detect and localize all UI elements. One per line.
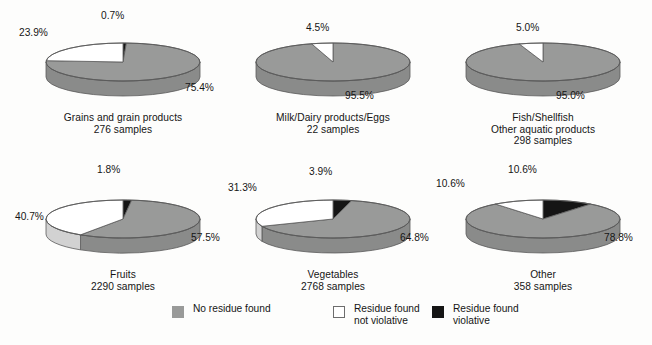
pct-label-1-noresidue: 95.5% bbox=[345, 90, 374, 101]
legend-entry-no-residue-found[interactable]: No residue found bbox=[172, 303, 271, 318]
pct-label-4-notviolative: 31.3% bbox=[228, 182, 257, 193]
pct-label-3-notviolative: 40.7% bbox=[15, 211, 44, 222]
pie-caption-4: Vegetables 2768 samples bbox=[224, 269, 442, 292]
legend-label-no-residue-found: No residue found bbox=[193, 303, 271, 315]
pie-caption-0: Grains and grain products 276 samples bbox=[14, 112, 232, 135]
pie-cell-2: Fish/Shellfish Other aquatic products 29… bbox=[434, 14, 652, 164]
pct-label-5-notviolative: 10.6% bbox=[436, 178, 465, 189]
legend-swatch-black-icon bbox=[432, 306, 444, 318]
legend-swatch-gray-icon bbox=[172, 306, 184, 318]
pie-chart-2 bbox=[434, 14, 652, 114]
pie-chart-1 bbox=[224, 14, 442, 114]
pie-cell-5: Other 358 samples bbox=[434, 171, 652, 321]
pie-cell-4: Vegetables 2768 samples bbox=[224, 171, 442, 321]
pct-label-0-violative: 0.7% bbox=[101, 10, 124, 21]
pie-caption-3: Fruits 2290 samples bbox=[14, 269, 232, 292]
pie-cell-3: Fruits 2290 samples bbox=[14, 171, 232, 321]
pct-label-1-notviolative: 4.5% bbox=[306, 22, 329, 33]
pct-label-5-noresidue: 78.8% bbox=[604, 232, 633, 243]
legend-label-residue-violative: Residue found violative bbox=[453, 303, 519, 326]
pie-caption-1: Milk/Dairy products/Eggs 22 samples bbox=[224, 112, 442, 135]
legend-entry-residue-violative[interactable]: Residue found violative bbox=[432, 303, 519, 326]
legend-entry-residue-not-violative[interactable]: Residue found not violative bbox=[333, 303, 420, 326]
pie-chart-5 bbox=[434, 171, 652, 271]
pie-caption-5: Other 358 samples bbox=[434, 269, 652, 292]
pct-label-3-violative: 1.8% bbox=[97, 164, 120, 175]
pie-caption-2: Fish/Shellfish Other aquatic products 29… bbox=[434, 112, 652, 147]
pie-cell-1: Milk/Dairy products/Eggs 22 samples bbox=[224, 14, 442, 164]
pct-label-4-violative: 3.9% bbox=[309, 166, 332, 177]
pct-label-3-noresidue: 57.5% bbox=[191, 232, 220, 243]
pct-label-2-notviolative: 5.0% bbox=[516, 22, 539, 33]
pct-label-0-notviolative: 23.9% bbox=[19, 27, 48, 38]
legend-label-residue-not-violative: Residue found not violative bbox=[354, 303, 420, 326]
pie-chart-figure: Grains and grain products 276 samples Mi… bbox=[0, 0, 652, 345]
pct-label-5-violative: 10.6% bbox=[508, 164, 537, 175]
pct-label-0-noresidue: 75.4% bbox=[185, 82, 214, 93]
chart-legend: No residue found Residue found not viola… bbox=[0, 303, 652, 337]
legend-swatch-white-icon bbox=[333, 306, 345, 318]
pct-label-4-noresidue: 64.8% bbox=[400, 232, 429, 243]
pct-label-2-noresidue: 95.0% bbox=[556, 90, 585, 101]
pie-chart-3 bbox=[14, 171, 232, 271]
